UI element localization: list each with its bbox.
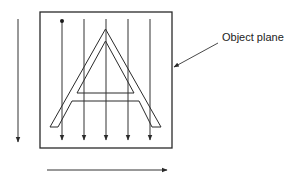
- scan-lines: [62, 19, 150, 140]
- object-plane-leader: [174, 43, 218, 67]
- object-plane-label: Object plane: [222, 32, 284, 43]
- scanning-diagram: [0, 0, 294, 176]
- scan-start-dot: [60, 19, 64, 23]
